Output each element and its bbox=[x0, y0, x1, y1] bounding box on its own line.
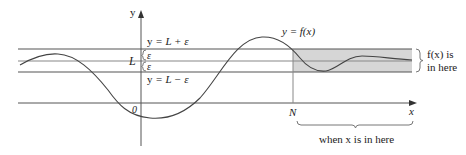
y-axis-label: y bbox=[130, 6, 136, 18]
lower-epsilon-label: ε bbox=[147, 61, 151, 72]
upper-line-label: y = L + ε bbox=[147, 35, 189, 47]
curve-label: y = f(x) bbox=[281, 25, 315, 38]
origin-label: 0 bbox=[132, 104, 137, 115]
lower-line-label-rest: = L − ε bbox=[153, 73, 190, 85]
x-axis-label: x bbox=[408, 105, 414, 117]
band-brace bbox=[416, 49, 423, 72]
lower-line-label: y = L − ε bbox=[147, 73, 189, 85]
epsilon-n-limit-diagram: y x 0 L ε ε y = L + ε y = L − ε y = f(x)… bbox=[0, 0, 466, 155]
lower-epsilon-brace bbox=[142, 62, 147, 71]
x-range-note: when x is in here bbox=[319, 133, 394, 145]
upper-epsilon-label: ε bbox=[147, 50, 151, 61]
band-note-line1: f(x) is bbox=[427, 48, 454, 61]
upper-line-label-rest: = L + ε bbox=[153, 35, 190, 47]
upper-epsilon-brace bbox=[142, 50, 147, 60]
band-note-line2: in here bbox=[427, 61, 457, 73]
n-label: N bbox=[288, 106, 297, 118]
x-range-brace bbox=[297, 121, 413, 128]
y-axis-arrow-icon bbox=[138, 10, 144, 18]
limit-L-label: L bbox=[128, 54, 136, 68]
